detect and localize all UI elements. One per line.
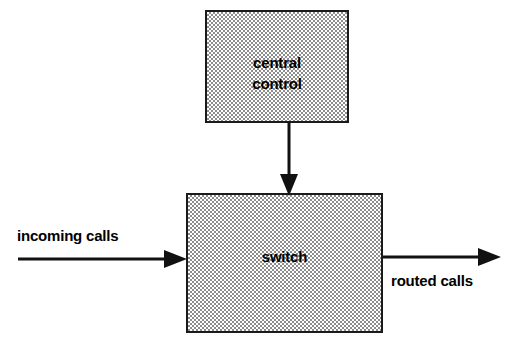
routed-calls-label: routed calls: [391, 272, 473, 289]
incoming-calls-label: incoming calls: [17, 227, 118, 244]
arrow-layer: [0, 0, 506, 340]
control-to-switch-arrow: [280, 122, 298, 196]
routed-calls-arrow: [383, 248, 501, 266]
diagram-canvas: central control switch incoming calls ro…: [0, 0, 506, 340]
incoming-calls-arrow: [18, 250, 187, 268]
